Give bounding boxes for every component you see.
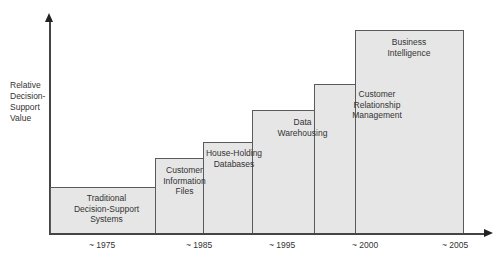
label-line: Databases — [203, 159, 265, 170]
label-line: Information — [155, 176, 214, 187]
label-line: Relationship — [350, 100, 404, 111]
x-tick-1985: ~ 1985 — [186, 240, 212, 250]
stage-label-business-intelligence: Business Intelligence — [375, 37, 443, 58]
stage-box-business-intelligence — [355, 30, 464, 234]
label-line: Customer — [350, 89, 404, 100]
x-axis-arrow-icon — [484, 229, 493, 237]
label-line: Business — [375, 37, 443, 48]
label-line: Warehousing — [252, 128, 353, 139]
label-line: Traditional — [50, 193, 163, 204]
x-tick-1995: ~ 1995 — [269, 240, 295, 250]
label-line: Systems — [50, 214, 163, 225]
ylabel-line: Support — [10, 102, 45, 113]
label-line: Data — [252, 117, 353, 128]
stage-label-data-warehousing: Data Warehousing — [252, 117, 353, 138]
x-tick-2000: ~ 2000 — [352, 240, 378, 250]
label-line: Files — [155, 186, 214, 197]
label-line: Management — [350, 110, 404, 121]
y-axis-arrow-icon — [45, 13, 53, 22]
ylabel-line: Relative — [10, 80, 45, 91]
x-tick-1975: ~ 1975 — [89, 240, 115, 250]
label-line: Intelligence — [375, 48, 443, 59]
stage-label-house-holding-databases: House-Holding Databases — [203, 148, 265, 169]
stage-label-customer-information-files: Customer Information Files — [155, 165, 214, 197]
x-axis — [49, 233, 485, 235]
stage-label-crm: Customer Relationship Management — [350, 89, 404, 121]
y-axis-label: Relative Decision- Support Value — [10, 80, 45, 124]
x-tick-2005: ~ 2005 — [442, 240, 468, 250]
ylabel-line: Value — [10, 113, 45, 124]
label-line: Decision-Support — [50, 204, 163, 215]
label-line: House-Holding — [203, 148, 265, 159]
ylabel-line: Decision- — [10, 91, 45, 102]
stage-label-traditional-dss: Traditional Decision-Support Systems — [50, 193, 163, 225]
